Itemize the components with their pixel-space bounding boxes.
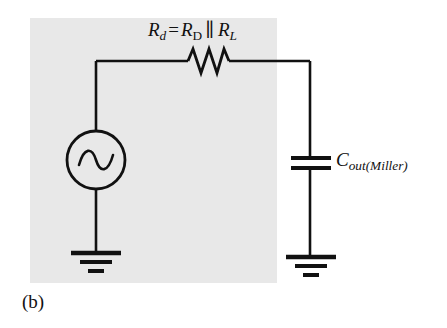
- figure-caption: (b): [22, 292, 44, 311]
- resistor-label: Rd=RD∥RL: [148, 20, 237, 42]
- capacitor-label-subscript: out(Miller): [349, 158, 408, 173]
- resistor-label-first-term-subscript: D: [193, 28, 203, 43]
- ac-source-sine-icon: [79, 151, 113, 169]
- circuit-figure: Rd=RD∥RL Cout(Miller) (b): [0, 0, 447, 328]
- capacitor-label: Cout(Miller): [336, 150, 408, 172]
- resistor-zigzag-symbol: [188, 49, 229, 73]
- resistor-label-main-symbol: R: [148, 19, 160, 40]
- capacitor-label-main-symbol: C: [336, 149, 349, 170]
- resistor-label-first-term-symbol: R: [181, 19, 193, 40]
- resistor-label-parallel-operator: ∥: [202, 19, 218, 40]
- resistor-label-second-term-symbol: R: [218, 19, 230, 40]
- resistor-label-equals-operator: =: [166, 19, 181, 40]
- resistor-label-second-term-subscript: L: [230, 28, 237, 43]
